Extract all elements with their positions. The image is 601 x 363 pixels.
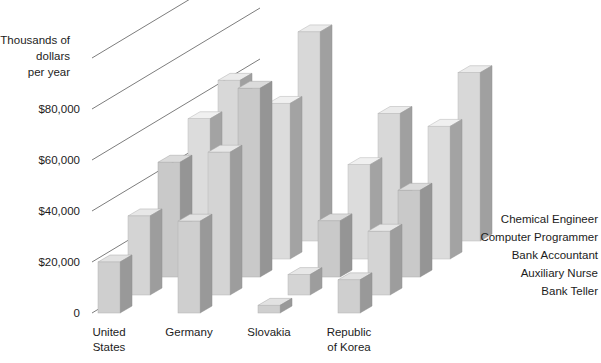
series-legend-labels: Bank TellerAuxiliary NurseBank Accountan… xyxy=(480,213,598,297)
bar-3d xyxy=(98,255,132,313)
bar-3d xyxy=(288,268,322,295)
y-tick-label: $80,000 xyxy=(38,103,80,115)
series-label-auxiliary-nurse: Auxiliary Nurse xyxy=(521,267,598,279)
y-axis-title-line-3: per year xyxy=(28,66,70,78)
gridline-top xyxy=(92,0,260,58)
bar-3d xyxy=(368,224,402,295)
bar-3d xyxy=(428,119,462,259)
y-axis-title: Thousands of dollars per year xyxy=(0,34,70,78)
series-label-bank-teller: Bank Teller xyxy=(541,285,598,297)
y-tick-label: $60,000 xyxy=(38,154,80,166)
y-axis-title-line-2: dollars xyxy=(36,50,70,62)
y-axis-tick-labels: 0$20,000$40,000$60,000$80,000 xyxy=(38,103,80,319)
y-axis-title-line-1: Thousands of xyxy=(0,34,70,46)
x-category-label: States xyxy=(93,341,126,353)
x-category-label: United xyxy=(92,326,125,338)
x-category-label: Slovakia xyxy=(247,326,291,338)
bar-3d xyxy=(318,214,352,277)
bar-3d xyxy=(458,66,492,241)
three-d-bar-chart: 0$20,000$40,000$60,000$80,000 Thousands … xyxy=(0,0,601,363)
series-label-chemical-engineer: Chemical Engineer xyxy=(501,213,598,225)
x-category-label: Germany xyxy=(165,326,213,338)
bar-3d xyxy=(398,183,432,277)
bar-3d xyxy=(128,209,162,295)
bar-3d xyxy=(268,96,302,259)
bar-3d xyxy=(238,81,272,277)
bar-3d xyxy=(258,298,292,313)
bar-3d xyxy=(298,25,332,241)
bar-3d xyxy=(338,273,372,313)
y-tick-label: $20,000 xyxy=(38,256,80,268)
series-label-bank-accountant: Bank Accountant xyxy=(512,249,599,261)
y-tick-label: $40,000 xyxy=(38,205,80,217)
bar-3d xyxy=(208,145,242,295)
bar-3d xyxy=(178,214,212,313)
chart-container: 0$20,000$40,000$60,000$80,000 Thousands … xyxy=(0,0,601,363)
x-axis-category-labels: UnitedStatesGermanySlovakiaRepublicof Ko… xyxy=(92,326,371,353)
series-label-computer-programmer: Computer Programmer xyxy=(480,231,598,243)
x-category-label: Republic xyxy=(327,326,372,338)
x-category-label: of Korea xyxy=(327,341,371,353)
bar-group-layer xyxy=(98,25,492,313)
y-tick-label: 0 xyxy=(74,307,80,319)
